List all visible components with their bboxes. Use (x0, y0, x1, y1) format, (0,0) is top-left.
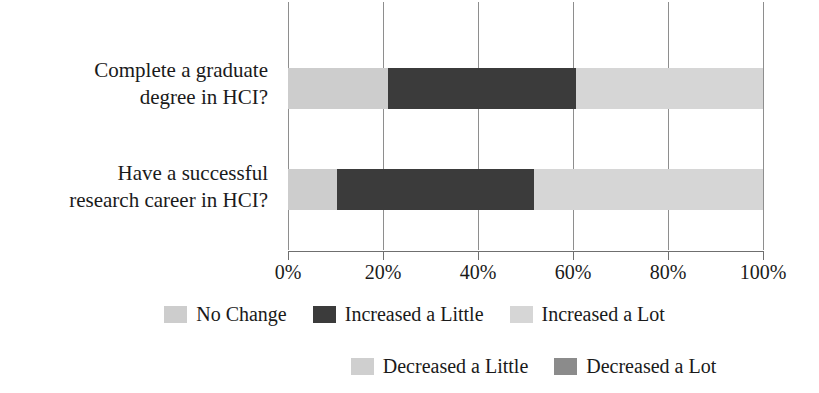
category-label-line: research career in HCI? (0, 187, 268, 214)
legend-item[interactable]: Increased a Little (313, 302, 484, 326)
x-tick-80 (668, 252, 669, 260)
bar-segment (388, 68, 576, 109)
category-label-line: Have a successful (0, 160, 268, 187)
gridline-40 (478, 2, 479, 250)
legend-label: Decreased a Lot (586, 354, 716, 378)
x-tick-label: 80% (628, 260, 708, 284)
x-tick-label: 20% (343, 260, 423, 284)
x-tick-60 (573, 252, 574, 260)
legend-item[interactable]: Decreased a Little (351, 354, 528, 378)
x-tick-20 (383, 252, 384, 260)
x-tick-label: 40% (438, 260, 518, 284)
legend-swatch-icon (554, 358, 577, 375)
x-tick-100 (763, 252, 764, 260)
category-axis-labels: Complete a graduate degree in HCI? Have … (0, 0, 280, 250)
bar-segment (576, 68, 763, 109)
legend-label: Increased a Little (345, 302, 484, 326)
bar-segment (288, 169, 337, 210)
gridline-60 (573, 2, 574, 250)
category-label-research-career: Have a successful research career in HCI… (0, 160, 268, 214)
legend-item[interactable]: Increased a Lot (510, 302, 665, 326)
x-axis-line (288, 251, 764, 252)
legend-item[interactable]: Decreased a Lot (554, 354, 716, 378)
legend-swatch-icon (510, 306, 533, 323)
gridline-0 (288, 2, 289, 250)
legend-label: Decreased a Little (383, 354, 528, 378)
bar-segment (534, 169, 763, 210)
stacked-bar-chart: Complete a graduate degree in HCI? Have … (0, 0, 819, 393)
legend-label: Increased a Lot (542, 302, 665, 326)
x-tick-label: 60% (533, 260, 613, 284)
x-tick-label: 0% (248, 260, 328, 284)
bar-segment (337, 169, 534, 210)
gridline-100 (763, 2, 764, 250)
legend-row-decreased: Decreased a LittleDecreased a Lot (124, 354, 819, 378)
gridline-80 (668, 2, 669, 250)
category-label-graduate-degree: Complete a graduate degree in HCI? (0, 57, 268, 111)
x-tick-40 (478, 252, 479, 260)
gridline-20 (383, 2, 384, 250)
legend-item[interactable]: No Change (164, 302, 287, 326)
bar-segment (288, 68, 388, 109)
category-label-line: degree in HCI? (0, 84, 268, 111)
category-label-line: Complete a graduate (0, 57, 268, 84)
x-tick-label: 100% (723, 260, 803, 284)
legend-row-increased: No ChangeIncreased a LittleIncreased a L… (5, 302, 819, 326)
legend-swatch-icon (164, 306, 187, 323)
chart-legend: No ChangeIncreased a LittleIncreased a L… (0, 296, 819, 392)
plot-area: 0%20%40%60%80%100% (288, 2, 763, 250)
legend-label: No Change (196, 302, 287, 326)
x-tick-0 (288, 252, 289, 260)
legend-swatch-icon (351, 358, 374, 375)
legend-swatch-icon (313, 306, 336, 323)
